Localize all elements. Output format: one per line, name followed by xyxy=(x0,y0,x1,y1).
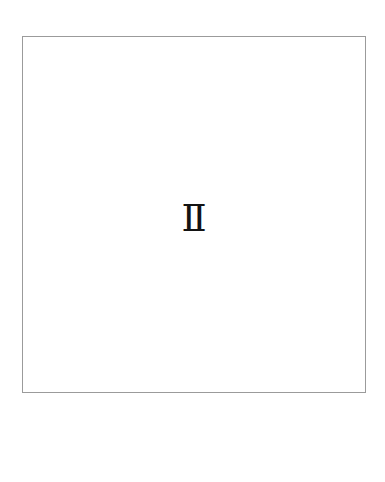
glyph-container: Ⅱ xyxy=(23,37,365,392)
page-canvas: Ⅱ xyxy=(0,0,385,482)
page-content-frame: Ⅱ xyxy=(22,36,366,393)
roman-numeral-two-glyph: Ⅱ xyxy=(181,200,206,237)
